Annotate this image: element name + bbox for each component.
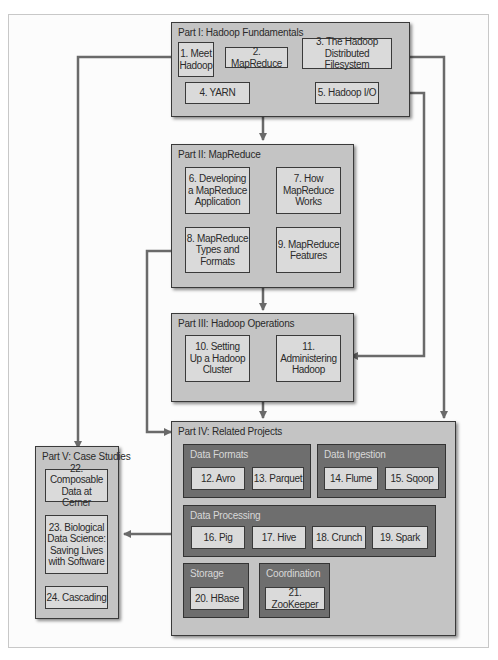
group-title: Data Ingestion — [324, 449, 386, 460]
group-title: Coordination — [266, 568, 320, 579]
chapter-20-hbase[interactable]: 20. HBase — [190, 587, 244, 610]
chapter-18-crunch[interactable]: 18. Crunch — [312, 526, 366, 549]
chapter-24-cascading[interactable]: 24. Cascading — [45, 586, 108, 609]
chapter-19-spark[interactable]: 19. Spark — [372, 526, 428, 549]
chapter-6-developing-mapreduce-app[interactable]: 6. Developing a MapReduce Application — [185, 167, 250, 214]
chapter-14-flume[interactable]: 14. Flume — [324, 467, 378, 490]
chapter-13-parquet[interactable]: 13. Parquet — [252, 467, 304, 490]
group-title: Storage — [190, 568, 224, 579]
part-title: Part V: Case Studies — [42, 451, 130, 462]
chapter-22-composable-data-cerner[interactable]: 22. Composable Data at Cerner — [45, 469, 108, 502]
chapter-7-how-mapreduce-works[interactable]: 7. How MapReduce Works — [276, 167, 341, 214]
chapter-5-hadoop-io[interactable]: 5. Hadoop I/O — [315, 82, 379, 104]
group-title: Data Processing — [190, 510, 260, 521]
part-title: Part II: MapReduce — [178, 149, 261, 160]
chapter-4-yarn[interactable]: 4. YARN — [185, 82, 250, 104]
part-title: Part I: Hadoop Fundamentals — [178, 27, 303, 38]
group-title: Data Formats — [190, 449, 248, 460]
chapter-11-administering-hadoop[interactable]: 11. Administering Hadoop — [276, 335, 341, 382]
part-title: Part IV: Related Projects — [178, 426, 282, 437]
chapter-23-biological-data-science[interactable]: 23. Biological Data Science: Saving Live… — [45, 515, 108, 574]
chapter-12-avro[interactable]: 12. Avro — [191, 467, 245, 490]
chapter-10-setting-up-cluster[interactable]: 10. Setting Up a Hadoop Cluster — [185, 335, 250, 382]
chapter-1-meet-hadoop[interactable]: 1. Meet Hadoop — [178, 42, 214, 77]
chapter-9-mapreduce-features[interactable]: 9. MapReduce Features — [276, 227, 341, 273]
chapter-21-zookeeper[interactable]: 21. ZooKeeper — [265, 587, 325, 610]
chapter-3-hdfs[interactable]: 3. The Hadoop Distributed Filesystem — [302, 38, 392, 69]
chapter-8-mapreduce-types-formats[interactable]: 8. MapReduce Types and Formats — [185, 227, 250, 273]
part-title: Part III: Hadoop Operations — [178, 318, 294, 329]
chapter-17-hive[interactable]: 17. Hive — [252, 526, 306, 549]
chapter-16-pig[interactable]: 16. Pig — [191, 526, 245, 549]
chapter-15-sqoop[interactable]: 15. Sqoop — [385, 467, 439, 490]
chapter-2-mapreduce[interactable]: 2. MapReduce — [225, 47, 288, 68]
